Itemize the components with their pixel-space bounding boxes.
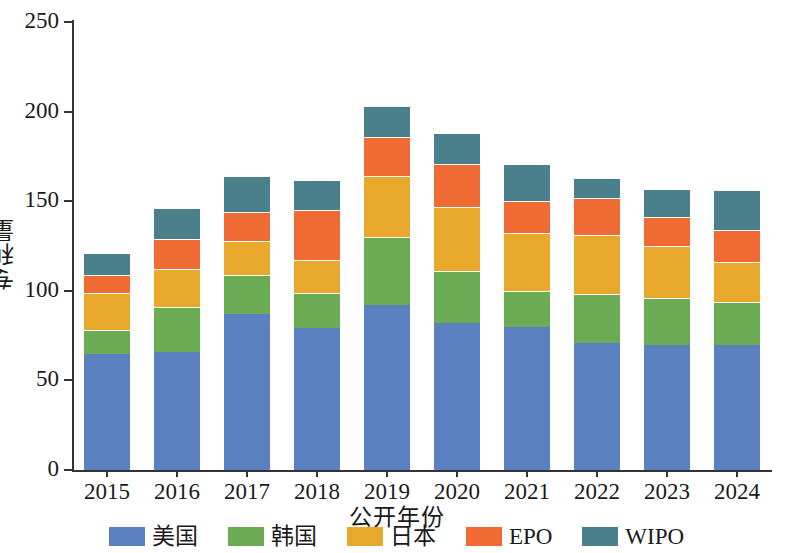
bar-segment bbox=[574, 294, 620, 342]
bar-segment bbox=[84, 293, 130, 331]
legend-item[interactable]: 韩国 bbox=[228, 524, 317, 549]
legend-swatch-icon bbox=[228, 527, 264, 546]
bar-segment bbox=[84, 275, 130, 293]
x-tick-label: 2024 bbox=[702, 478, 772, 506]
y-tick-mark bbox=[64, 379, 72, 381]
x-tick-label: 2019 bbox=[352, 478, 422, 506]
bar-segment bbox=[224, 314, 270, 470]
legend-swatch-icon bbox=[466, 527, 502, 546]
x-tick-label: 2022 bbox=[562, 478, 632, 506]
y-tick-label: 200 bbox=[25, 97, 60, 125]
x-tick-mark bbox=[176, 470, 178, 477]
bar-segment bbox=[294, 260, 340, 292]
bar-segment bbox=[294, 328, 340, 470]
y-tick-label: 150 bbox=[25, 186, 60, 214]
legend-swatch-icon bbox=[109, 527, 145, 546]
x-tick-label: 2017 bbox=[212, 478, 282, 506]
bar-segment bbox=[714, 262, 760, 301]
x-tick-mark bbox=[666, 470, 668, 477]
y-tick-label: 0 bbox=[48, 455, 60, 483]
y-tick-label: 100 bbox=[25, 276, 60, 304]
bar-segment bbox=[504, 201, 550, 233]
legend-item[interactable]: EPO bbox=[466, 524, 552, 549]
y-tick-mark bbox=[64, 21, 72, 23]
legend-item[interactable]: 美国 bbox=[109, 524, 198, 549]
legend-swatch-icon bbox=[347, 527, 383, 546]
bar-segment bbox=[294, 210, 340, 260]
bar-segment bbox=[574, 198, 620, 236]
bar-segment bbox=[224, 241, 270, 275]
bar-segment bbox=[434, 323, 480, 470]
bar-segment bbox=[364, 237, 410, 305]
bar-segment bbox=[364, 176, 410, 237]
legend-label: 韩国 bbox=[271, 524, 317, 549]
bar-segment bbox=[714, 302, 760, 345]
x-tick-mark bbox=[106, 470, 108, 477]
plot-area bbox=[72, 22, 772, 470]
x-tick-label: 2015 bbox=[72, 478, 142, 506]
stacked-bar-chart: 专利量 公开年份 050100150200250 201520162017201… bbox=[0, 0, 793, 553]
bar-segment bbox=[84, 253, 130, 275]
x-tick-label: 2023 bbox=[632, 478, 702, 506]
x-tick-mark bbox=[246, 470, 248, 477]
bar-segment bbox=[574, 343, 620, 470]
legend-label: WIPO bbox=[625, 524, 684, 549]
bar-segment bbox=[714, 345, 760, 470]
bar-segment bbox=[644, 298, 690, 345]
y-tick-mark bbox=[64, 200, 72, 202]
bar-segment bbox=[714, 230, 760, 262]
legend-label: 美国 bbox=[152, 524, 198, 549]
bar-segment bbox=[294, 293, 340, 329]
bar-segment bbox=[644, 345, 690, 470]
bar-segment bbox=[504, 233, 550, 290]
bar-segment bbox=[434, 133, 480, 163]
bar-segment bbox=[574, 178, 620, 198]
x-tick-mark bbox=[316, 470, 318, 477]
y-tick-label: 50 bbox=[36, 365, 59, 393]
bar-segment bbox=[84, 330, 130, 353]
bar-segment bbox=[714, 190, 760, 229]
bar-segment bbox=[154, 307, 200, 352]
y-axis-title: 专利量 bbox=[0, 218, 18, 290]
bar-segment bbox=[644, 246, 690, 298]
bar-segment bbox=[644, 189, 690, 218]
y-tick-mark bbox=[64, 290, 72, 292]
bar-segment bbox=[154, 239, 200, 269]
x-tick-mark bbox=[526, 470, 528, 477]
x-tick-label: 2016 bbox=[142, 478, 212, 506]
legend-swatch-icon bbox=[582, 527, 618, 546]
legend-item[interactable]: 日本 bbox=[347, 524, 436, 549]
x-tick-label: 2020 bbox=[422, 478, 492, 506]
legend-label: EPO bbox=[509, 524, 552, 549]
bar-segment bbox=[224, 275, 270, 314]
legend-item[interactable]: WIPO bbox=[582, 524, 684, 549]
x-tick-label: 2021 bbox=[492, 478, 562, 506]
bar-segment bbox=[294, 180, 340, 210]
bar-segment bbox=[644, 217, 690, 246]
y-tick-mark bbox=[64, 111, 72, 113]
bar-segment bbox=[364, 137, 410, 176]
x-tick-mark bbox=[736, 470, 738, 477]
x-tick-label: 2018 bbox=[282, 478, 352, 506]
bar-segment bbox=[434, 207, 480, 272]
bar-segment bbox=[154, 269, 200, 307]
y-tick-mark bbox=[64, 469, 72, 471]
y-tick-label: 250 bbox=[25, 7, 60, 35]
bar-segment bbox=[84, 354, 130, 470]
bar-segment bbox=[504, 327, 550, 470]
x-tick-mark bbox=[386, 470, 388, 477]
bar-segment bbox=[364, 305, 410, 470]
bar-segment bbox=[224, 176, 270, 212]
bar-segment bbox=[224, 212, 270, 241]
chart-legend: 美国韩国日本EPOWIPO bbox=[0, 524, 793, 549]
legend-label: 日本 bbox=[390, 524, 436, 549]
x-tick-mark bbox=[456, 470, 458, 477]
bar-segment bbox=[504, 291, 550, 327]
bar-segment bbox=[154, 208, 200, 238]
bar-segment bbox=[434, 164, 480, 207]
bar-segment bbox=[364, 106, 410, 136]
bar-segment bbox=[504, 164, 550, 202]
bar-segment bbox=[434, 271, 480, 323]
bar-segment bbox=[574, 235, 620, 294]
x-tick-mark bbox=[596, 470, 598, 477]
